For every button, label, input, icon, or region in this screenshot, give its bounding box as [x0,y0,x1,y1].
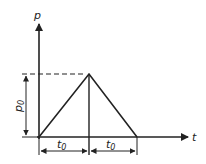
svg-text:p0: p0 [12,100,26,113]
amplitude-label: p0 [12,100,26,113]
pulse-curve [39,74,137,137]
rise-time-label: t0 [57,138,66,152]
x-axis-label: t [192,131,197,144]
triangular-pulse-diagram: p t p0 t0 t0 [0,0,206,164]
y-axis-label: p [33,9,41,22]
fall-time-label: t0 [106,138,115,152]
